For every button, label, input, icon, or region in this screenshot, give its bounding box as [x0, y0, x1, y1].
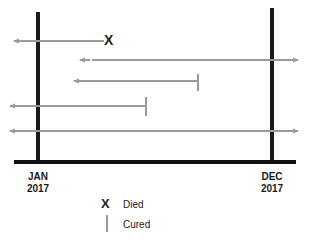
cured-legend-label: Cured	[123, 219, 150, 231]
timeline-diagram	[0, 0, 310, 244]
cured-legend-icon	[106, 215, 108, 232]
died-legend-label: Died	[123, 199, 144, 211]
jan-year: 2017	[18, 183, 58, 195]
timeline-row-4	[10, 97, 146, 116]
timeline-row-3	[74, 74, 198, 91]
dec-month: DEC	[252, 171, 292, 183]
dec-2017-label: DEC 2017	[252, 171, 292, 195]
died-marker-row-1: X	[104, 33, 113, 47]
jan-month: JAN	[18, 171, 58, 183]
jan-2017-label: JAN 2017	[18, 171, 58, 195]
died-legend-icon: X	[101, 197, 110, 211]
dec-year: 2017	[252, 183, 292, 195]
